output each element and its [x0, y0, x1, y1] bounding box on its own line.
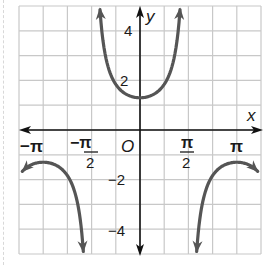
right-lower-branch-curve — [197, 162, 258, 251]
y-tick-label-neg4: −4 — [108, 222, 125, 239]
axes — [19, 6, 263, 256]
y-tick-label-neg2: −2 — [108, 171, 125, 188]
left-lower-branch-curve — [22, 162, 83, 251]
x-tick-label-pi: π — [230, 137, 243, 156]
x-tick-label-neg-pi-half-num: −π — [70, 134, 92, 151]
x-tick-label-pi-half-num: π — [181, 134, 193, 151]
x-axis-label: x — [246, 106, 256, 125]
origin-label: O — [121, 137, 134, 156]
secant-graph: y x O 4 2 −2 −4 −π −π 2 π 2 π — [0, 0, 271, 265]
x-tick-label-pi-half-den: 2 — [182, 154, 190, 171]
y-tick-label-2: 2 — [120, 72, 128, 89]
y-tick-label-4: 4 — [124, 22, 132, 39]
x-tick-label-neg-pi-half-den: 2 — [86, 154, 94, 171]
x-tick-label-neg-pi: −π — [20, 137, 43, 156]
y-axis-label: y — [145, 7, 156, 26]
